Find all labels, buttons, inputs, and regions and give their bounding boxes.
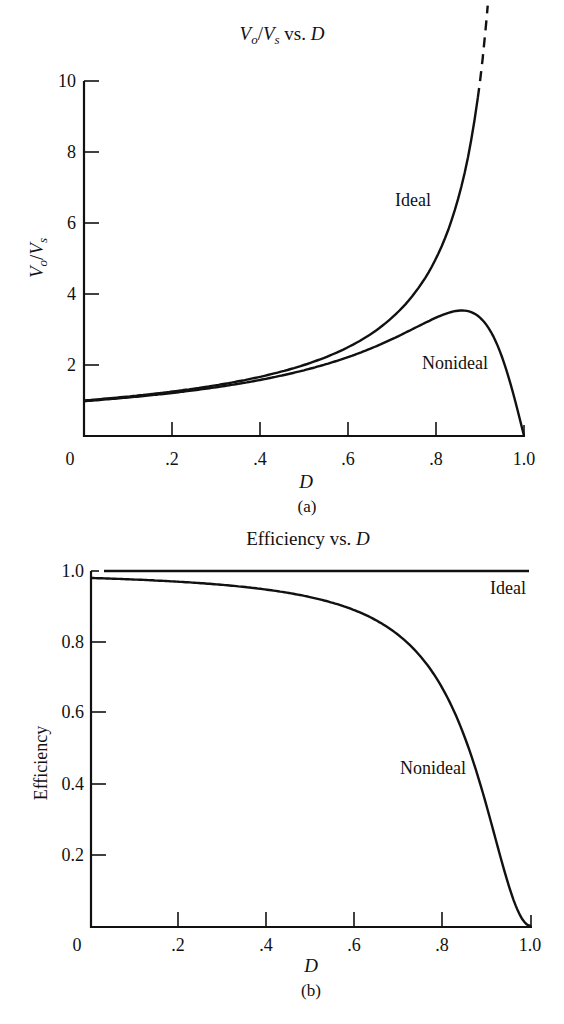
chart-a-nonideal-curve: [84, 311, 524, 436]
svg-text:1.0: 1.0: [62, 561, 85, 581]
svg-text:.4: .4: [259, 935, 273, 955]
chart-b-nonideal-label: Nonideal: [400, 758, 466, 778]
chart-a-ideal-label: Ideal: [395, 190, 431, 210]
chart-b-nonideal-curve: [91, 578, 531, 926]
figure: Vo/Vs vs. D 10 8 6 4 2 0 .2: [0, 0, 564, 1024]
chart-a-nonideal-label: Nonideal: [422, 353, 488, 373]
chart-b-caption: (b): [301, 981, 321, 1000]
chart-b-x-label: D: [303, 955, 318, 976]
chart-a-title: Vo/Vs vs. D: [240, 23, 325, 47]
chart-a-caption: (a): [298, 497, 317, 516]
chart-b-title: Efficiency vs. D: [246, 528, 370, 549]
svg-text:4: 4: [67, 284, 76, 304]
svg-text:.2: .2: [171, 935, 185, 955]
svg-text:1.0: 1.0: [513, 449, 536, 469]
svg-text:0.6: 0.6: [62, 702, 85, 722]
svg-text:6: 6: [67, 213, 76, 233]
chart-b-y-label: Efficiency: [31, 726, 51, 801]
chart-b-y-ticks: [91, 642, 106, 855]
chart-a-y-label: Vo/Vs: [26, 238, 50, 278]
svg-text:.6: .6: [347, 935, 361, 955]
chart-a-ideal-dashed-extension: [478, 6, 488, 98]
chart-a: Vo/Vs vs. D 10 8 6 4 2 0 .2: [26, 6, 535, 516]
chart-a-y-ticks: [84, 81, 99, 365]
svg-text:.8: .8: [435, 935, 449, 955]
svg-text:.8: .8: [429, 449, 443, 469]
svg-text:.4: .4: [253, 449, 267, 469]
chart-b-y-tick-labels: 1.0 0.8 0.6 0.4 0.2: [62, 561, 85, 865]
svg-text:8: 8: [67, 142, 76, 162]
chart-a-x-tick-labels: 0 .2 .4 .6 .8 1.0: [66, 449, 536, 469]
svg-text:0: 0: [66, 449, 75, 469]
chart-b-x-tick-labels: 0 .2 .4 .6 .8 1.0: [73, 935, 542, 955]
svg-text:0.8: 0.8: [62, 632, 85, 652]
svg-text:0: 0: [73, 935, 82, 955]
chart-b: Efficiency vs. D 1.0 0.8 0.6 0.4 0.2 0 .…: [31, 528, 541, 1000]
chart-b-x-ticks: [178, 912, 442, 927]
svg-text:10: 10: [58, 71, 76, 91]
svg-text:2: 2: [67, 355, 76, 375]
chart-a-ideal-curve: [84, 98, 478, 401]
svg-text:0.4: 0.4: [62, 774, 85, 794]
chart-a-y-tick-labels: 10 8 6 4 2: [58, 71, 76, 375]
chart-b-ideal-label: Ideal: [490, 578, 526, 598]
svg-text:1.0: 1.0: [519, 935, 542, 955]
svg-text:.2: .2: [165, 449, 179, 469]
svg-text:.6: .6: [341, 449, 355, 469]
chart-a-x-label: D: [298, 471, 313, 492]
chart-a-x-ticks: [172, 422, 436, 436]
svg-text:0.2: 0.2: [62, 845, 85, 865]
